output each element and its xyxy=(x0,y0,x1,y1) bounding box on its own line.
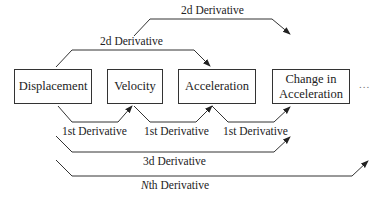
box-change-in-acceleration-line2: Acceleration xyxy=(279,87,343,102)
derivative-chain-diagram: Displacement Velocity Acceleration Chang… xyxy=(0,0,380,200)
arrow-1st-derivative-3 xyxy=(212,106,290,122)
arrow-2d-derivative-upper xyxy=(134,19,290,36)
box-acceleration-label: Acceleration xyxy=(185,79,249,94)
box-displacement-label: Displacement xyxy=(19,79,88,94)
arrow-3d-derivative xyxy=(56,136,290,152)
label-nth-italic-n: N xyxy=(141,179,149,191)
box-velocity-label: Velocity xyxy=(114,79,156,94)
continuation-ellipsis: ... xyxy=(359,78,370,90)
label-nth-rest: th Derivative xyxy=(149,179,209,191)
label-2d-derivative-upper: 2d Derivative xyxy=(181,4,244,16)
label-2d-derivative-lower: 2d Derivative xyxy=(100,35,163,47)
label-nth-derivative: Nth Derivative xyxy=(141,179,209,191)
arrow-1st-derivative-2 xyxy=(134,106,212,122)
box-displacement: Displacement xyxy=(14,69,92,104)
box-change-in-acceleration-line1: Change in xyxy=(285,72,336,87)
label-1st-derivative-3: 1st Derivative xyxy=(223,125,288,137)
box-velocity: Velocity xyxy=(107,69,163,104)
box-change-in-acceleration: Change in Acceleration xyxy=(272,69,350,104)
label-1st-derivative-2: 1st Derivative xyxy=(144,125,209,137)
arrow-1st-derivative-1 xyxy=(58,106,132,122)
label-1st-derivative-1: 1st Derivative xyxy=(62,125,127,137)
label-3d-derivative: 3d Derivative xyxy=(143,155,206,167)
arrow-2d-derivative-lower xyxy=(56,50,210,67)
arrow-nth-derivative xyxy=(56,160,368,176)
box-acceleration: Acceleration xyxy=(178,69,256,104)
